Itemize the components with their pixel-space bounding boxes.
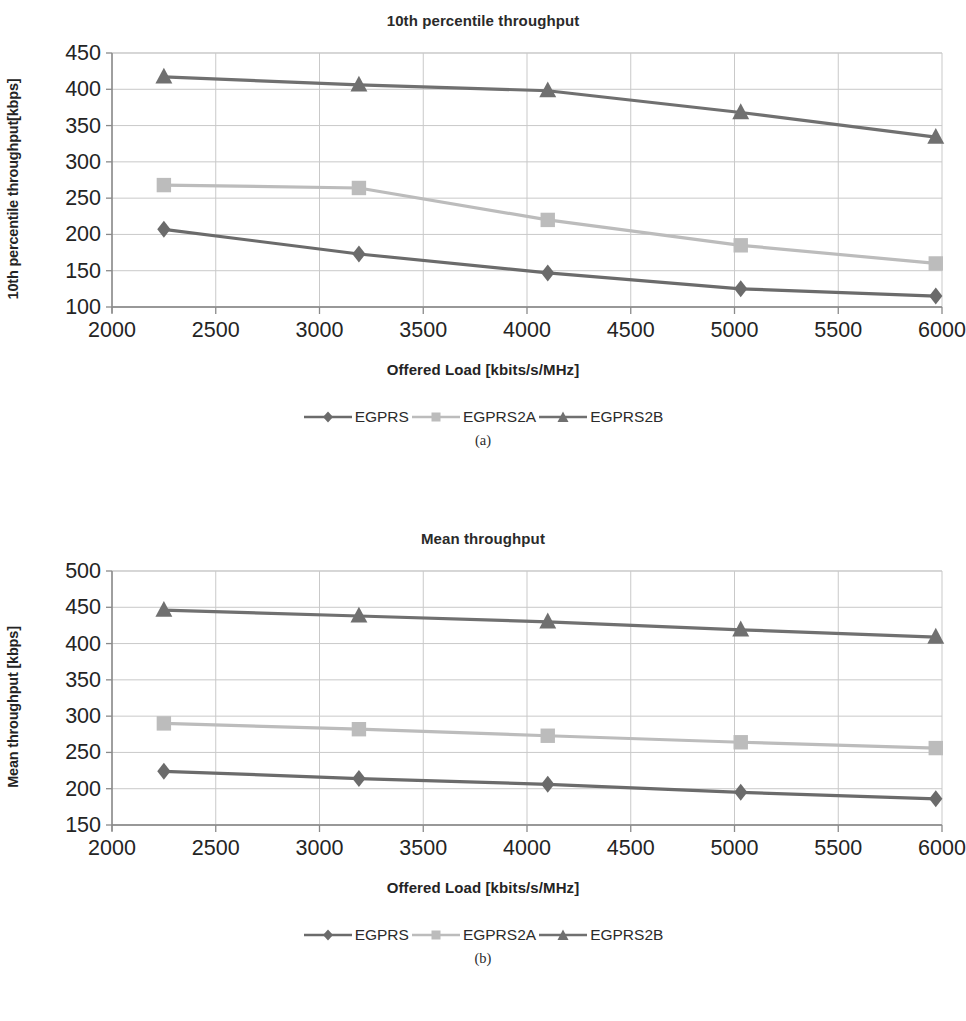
x-axis-label-a: Offered Load [kbits/s/MHz] xyxy=(0,361,966,378)
triangle-icon xyxy=(537,409,589,425)
x-tick-label: 4500 xyxy=(607,836,655,857)
x-tick-label: 4000 xyxy=(503,836,551,857)
y-tick-label: 400 xyxy=(65,77,101,101)
data-point-egprs xyxy=(541,776,554,793)
x-axis-label-b: Offered Load [kbits/s/MHz] xyxy=(0,879,966,896)
chart-title-b: Mean throughput xyxy=(0,512,966,547)
data-point-egprs2a xyxy=(541,729,555,743)
y-tick-label: 200 xyxy=(65,222,101,246)
x-tick-label: 5500 xyxy=(814,318,862,339)
y-tick-label: 250 xyxy=(65,186,101,210)
legend-label-egprs2b-a: EGPRS2B xyxy=(590,408,663,426)
legend-label-egprs-a: EGPRS xyxy=(355,408,409,426)
legend-item-egprs-b: EGPRS xyxy=(302,926,410,944)
x-tick-label: 5500 xyxy=(814,836,862,857)
x-tick-label: 4500 xyxy=(607,318,655,339)
data-point-egprs2a xyxy=(541,213,555,227)
data-point-egprs2a xyxy=(352,181,366,195)
y-tick-label: 250 xyxy=(65,740,101,764)
x-tick-label: 3000 xyxy=(296,836,344,857)
data-point-egprs2a xyxy=(734,238,748,252)
legend-label-egprs2a-a: EGPRS2A xyxy=(463,408,536,426)
data-point-egprs2a xyxy=(352,722,366,736)
plot-area-b: Mean throughput [kbps] 15020025030035040… xyxy=(0,557,966,857)
data-point-egprs2a xyxy=(929,741,943,755)
chart-svg-b: 1502002503003504004505002000250030003500… xyxy=(0,557,966,857)
diamond-icon xyxy=(302,927,354,943)
chart-panel-a: 10th percentile throughput 10th percenti… xyxy=(0,0,966,512)
legend-label-egprs-b: EGPRS xyxy=(355,926,409,944)
chart-title-a: 10th percentile throughput xyxy=(0,0,966,29)
diamond-icon xyxy=(302,409,354,425)
x-tick-label: 3000 xyxy=(296,318,344,339)
subcaption-b: (b) xyxy=(0,950,966,967)
data-point-egprs2a xyxy=(734,735,748,749)
y-tick-label: 450 xyxy=(65,595,101,619)
data-point-egprs xyxy=(352,246,365,263)
legend-label-egprs2b-b: EGPRS2B xyxy=(590,926,663,944)
data-point-egprs xyxy=(929,790,942,807)
y-tick-label: 500 xyxy=(65,559,101,583)
y-tick-label: 350 xyxy=(65,114,101,138)
chart-panel-b: Mean throughput Mean throughput [kbps] 1… xyxy=(0,512,966,1021)
data-point-egprs2a xyxy=(157,716,171,730)
x-tick-label: 4000 xyxy=(503,318,551,339)
legend-b: EGPRS EGPRS2A EGPRS2B xyxy=(0,926,966,944)
data-point-egprs xyxy=(157,763,170,780)
y-tick-label: 200 xyxy=(65,777,101,801)
x-tick-label: 5000 xyxy=(711,836,759,857)
data-point-egprs xyxy=(157,221,170,238)
x-tick-label: 3500 xyxy=(399,318,447,339)
figure: 10th percentile throughput 10th percenti… xyxy=(0,0,966,1021)
x-tick-label: 2500 xyxy=(192,318,240,339)
y-tick-label: 300 xyxy=(65,704,101,728)
square-icon xyxy=(410,927,462,943)
data-point-egprs xyxy=(734,784,747,801)
triangle-icon xyxy=(537,927,589,943)
data-point-egprs xyxy=(734,280,747,297)
legend-item-egprs2b-b: EGPRS2B xyxy=(537,926,664,944)
series-line-egprs xyxy=(164,229,936,296)
x-tick-label: 6000 xyxy=(918,318,966,339)
y-tick-label: 350 xyxy=(65,668,101,692)
chart-content: 1001502002503003504004502000250030003500… xyxy=(65,41,966,339)
legend-item-egprs-a: EGPRS xyxy=(302,408,410,426)
square-icon xyxy=(410,409,462,425)
data-point-egprs2a xyxy=(157,178,171,192)
x-tick-label: 5000 xyxy=(711,318,759,339)
y-tick-label: 100 xyxy=(65,295,101,319)
legend-item-egprs2a-b: EGPRS2A xyxy=(410,926,537,944)
y-tick-label: 150 xyxy=(65,259,101,283)
plot-area-a: 10th percentile throughput[kbps] 1001502… xyxy=(0,39,966,339)
x-tick-label: 2000 xyxy=(88,318,136,339)
y-tick-label: 300 xyxy=(65,150,101,174)
x-tick-label: 6000 xyxy=(918,836,966,857)
y-tick-label: 400 xyxy=(65,632,101,656)
chart-content: 1502002503003504004505002000250030003500… xyxy=(65,559,966,857)
data-point-egprs xyxy=(929,288,942,305)
chart-svg-a: 1001502002503003504004502000250030003500… xyxy=(0,39,966,339)
x-tick-label: 2000 xyxy=(88,836,136,857)
data-point-egprs xyxy=(541,264,554,281)
legend-item-egprs2a-a: EGPRS2A xyxy=(410,408,537,426)
legend-item-egprs2b-a: EGPRS2B xyxy=(537,408,664,426)
y-tick-label: 450 xyxy=(65,41,101,65)
data-point-egprs2a xyxy=(929,256,943,270)
x-tick-label: 2500 xyxy=(192,836,240,857)
y-tick-label: 150 xyxy=(65,813,101,837)
data-point-egprs xyxy=(352,770,365,787)
x-tick-label: 3500 xyxy=(399,836,447,857)
subcaption-a: (a) xyxy=(0,432,966,449)
legend-label-egprs2a-b: EGPRS2A xyxy=(463,926,536,944)
legend-a: EGPRS EGPRS2A EGPRS2B xyxy=(0,408,966,426)
